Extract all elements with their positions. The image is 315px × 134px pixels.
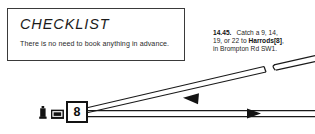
diagonal-route-continuation xyxy=(273,56,315,71)
arrowhead-left-icon xyxy=(183,93,199,104)
checklist-body-text: There is no need to book anything in adv… xyxy=(20,40,180,49)
route-break-cap xyxy=(273,65,275,70)
annotation-reference: [8] xyxy=(274,37,282,44)
guidebook-page: CHECKLIST There is no need to book anyth… xyxy=(0,0,315,134)
horizontal-route-line xyxy=(86,111,315,117)
checklist-box: CHECKLIST There is no need to book anyth… xyxy=(7,8,185,61)
annotation-destination: Harrods xyxy=(248,37,273,44)
shop-icon xyxy=(51,109,64,119)
diagonal-route-line xyxy=(86,67,266,114)
arrowhead-right-icon xyxy=(247,109,261,119)
monument-icon xyxy=(39,106,47,119)
stop-marker-number: 8 xyxy=(74,106,81,119)
bus-stop-marker-8[interactable]: 8 xyxy=(66,101,88,123)
checklist-title: CHECKLIST xyxy=(20,16,109,32)
itinerary-annotation: 14.45.Catch a 9, 14, 19, or 22 to Harrod… xyxy=(213,29,287,53)
annotation-time: 14.45. xyxy=(213,29,231,36)
legend-icon-group xyxy=(39,106,64,119)
